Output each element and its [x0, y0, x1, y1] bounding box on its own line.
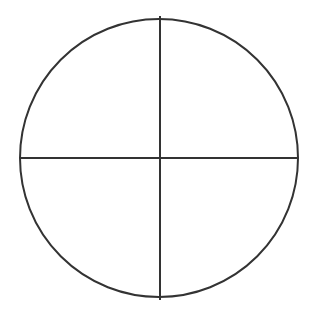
quadrant-circle-diagram	[0, 0, 320, 317]
diagram-canvas	[0, 0, 320, 317]
